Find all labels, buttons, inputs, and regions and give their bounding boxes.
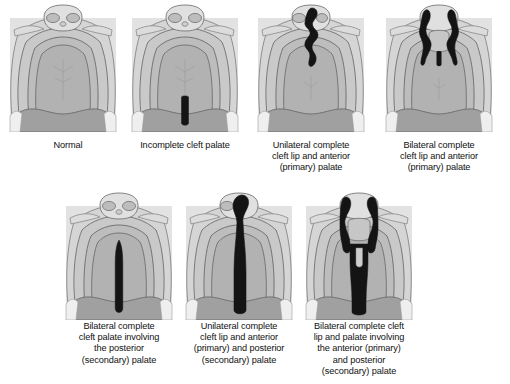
panel-unilateral-cleft-lip: Unilateral complete cleft lip and anteri… [252, 4, 370, 132]
premaxilla-segment [348, 218, 370, 241]
palate-illustration-normal [4, 4, 122, 132]
palate-illustration-bilateral-full [300, 192, 418, 320]
palate-illustration-unilateral-lip [252, 4, 370, 132]
panel-caption: Bilateral complete cleft lip and anterio… [359, 140, 510, 174]
panel-incomplete-cleft-palate: Incomplete cleft palate [126, 4, 244, 132]
panel-bilateral-complete-cleft: Bilateral complete cleft lip and palate … [300, 192, 418, 320]
cleft-opening [115, 240, 123, 313]
panel-bilateral-cleft-lip: Bilateral complete cleft lip and anterio… [380, 4, 498, 132]
cleft-opening [182, 96, 189, 125]
palate-illustration-posterior [60, 192, 178, 320]
panel-bilateral-cleft-palate-posterior: Bilateral complete cleft palate involvin… [60, 192, 178, 320]
palate-illustration-incomplete [126, 4, 244, 132]
cleft-palate-figure: Normal [0, 0, 510, 384]
panel-normal: Normal [4, 4, 122, 132]
panel-caption: Bilateral complete cleft lip and palate … [279, 321, 439, 377]
vomer-strip [356, 248, 363, 267]
palate-illustration-unilateral-full [180, 192, 298, 320]
palate-illustration-bilateral-lip [380, 4, 498, 132]
premaxilla-segment [429, 30, 449, 52]
panel-unilateral-complete-cleft: Unilateral complete cleft lip and anteri… [180, 192, 298, 320]
cleft-opening-midline [437, 51, 442, 66]
